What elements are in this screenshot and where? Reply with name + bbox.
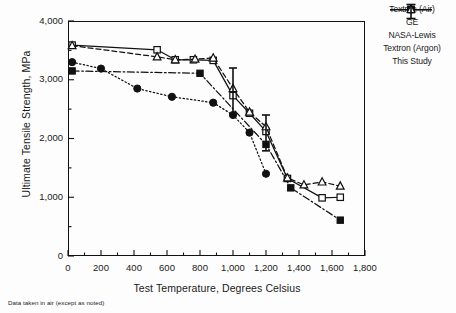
legend-item-label: NASA-Lewis	[368, 30, 456, 40]
series-textron-argon	[68, 41, 344, 189]
legend-item-nasa-lewis[interactable]: NASA-Lewis	[368, 30, 456, 40]
legend-item-marker-error-bar	[368, 3, 454, 16]
x-axis-title: Test Temperature, Degrees Celsius	[68, 282, 366, 294]
data-series-layer	[68, 21, 365, 256]
y-tick-label: 3,000	[17, 73, 63, 84]
legend-item-label: This Study	[368, 56, 456, 66]
x-tick-label: 1,800	[345, 262, 385, 273]
y-tick-label: 1,000	[17, 191, 63, 202]
y-tick-label: 2,000	[17, 132, 63, 143]
chart-figure: Ultimate Tensile Strength, MPa Test Temp…	[0, 0, 456, 313]
series-ge	[69, 68, 344, 224]
legend-item-this-study[interactable]: This Study	[368, 56, 456, 66]
series-nasa-lewis	[69, 59, 270, 178]
y-tick-label: 0	[17, 250, 63, 261]
series-textron-air	[69, 42, 344, 201]
chart-footnote: Data taken in air (except as noted)	[8, 299, 104, 306]
legend-item-label: Textron (Argon)	[368, 43, 456, 53]
plot-area	[68, 21, 365, 256]
y-tick-label: 4,000	[17, 15, 63, 26]
chart-legend: Textron (Air)GENASA-LewisTextron (Argon)…	[368, 4, 456, 69]
legend-item-textron-argon[interactable]: Textron (Argon)	[368, 43, 456, 53]
